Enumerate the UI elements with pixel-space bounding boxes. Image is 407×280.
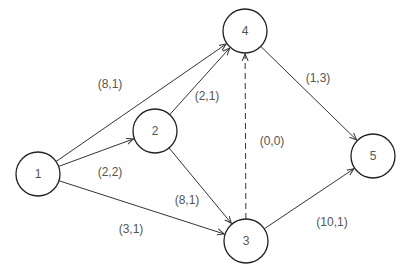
edge-1-2 xyxy=(59,139,134,166)
node-2: 2 xyxy=(133,109,177,153)
edge-label-2-4: (2,1) xyxy=(195,89,220,103)
edge-4-5 xyxy=(261,46,357,140)
edge-2-4 xyxy=(170,48,230,115)
edge-label-3-5: (10,1) xyxy=(316,215,347,229)
edge-label-3-4: (0,0) xyxy=(260,134,285,148)
node-label: 5 xyxy=(370,149,377,163)
node-4: 4 xyxy=(223,9,267,53)
edge-label-1-3: (3,1) xyxy=(119,222,144,236)
node-label: 4 xyxy=(242,24,249,38)
node-label: 3 xyxy=(243,234,250,248)
node-label: 2 xyxy=(152,124,159,138)
network-diagram: (8,1)(2,2)(3,1)(2,1)(8,1)(0,0)(1,3)(10,1… xyxy=(0,0,407,280)
node-1: 1 xyxy=(16,152,60,196)
edge-3-4 xyxy=(245,54,246,219)
node-3: 3 xyxy=(224,219,268,263)
edge-label-1-4: (8,1) xyxy=(98,77,123,91)
edge-label-2-3: (8,1) xyxy=(175,193,200,207)
diagram-svg: (8,1)(2,2)(3,1)(2,1)(8,1)(0,0)(1,3)(10,1… xyxy=(0,0,407,280)
node-label: 1 xyxy=(35,167,42,181)
edge-label-1-2: (2,2) xyxy=(98,165,123,179)
edge-label-4-5: (1,3) xyxy=(306,71,331,85)
node-5: 5 xyxy=(351,134,395,178)
edge-2-3 xyxy=(169,148,231,223)
